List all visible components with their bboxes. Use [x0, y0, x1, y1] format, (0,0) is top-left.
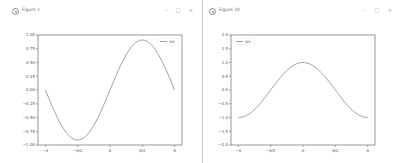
y-tick-label: −0.5 — [218, 101, 228, 106]
y-tick-label: −0.75 — [23, 129, 36, 134]
x-tick-label: 0 — [109, 148, 112, 153]
x-tick-label: π/2 — [139, 148, 146, 153]
y-tick-label: −2.0 — [218, 142, 228, 147]
y-tick-label: 1.0 — [222, 60, 229, 65]
x-tick-label: −π/2 — [73, 148, 83, 153]
x-tick-label: π — [366, 148, 369, 153]
y-tick-label: 1.5 — [222, 46, 229, 51]
figure-window-1: Figure 1 – □ × 1.000.750.500.250.00−0.25… — [0, 0, 200, 163]
y-tick-label: 0.25 — [26, 74, 35, 79]
y-tick-label: 1.00 — [26, 32, 35, 37]
x-tick-label: −π — [235, 148, 241, 153]
x-tick-label: 0 — [302, 148, 305, 153]
x-tick-label: −π — [42, 148, 48, 153]
y-tick-label: −0.50 — [23, 115, 36, 120]
figure-window-10: Figure 10 – □ × 2.01.51.00.50.0−0.5−1.0−… — [202, 0, 404, 163]
y-tick-label: 2.0 — [222, 32, 229, 37]
legend-label: sin — [245, 39, 251, 44]
x-tick-label: −π/2 — [266, 148, 276, 153]
series-line — [238, 63, 367, 118]
y-tick-label: 0.0 — [222, 87, 229, 92]
y-tick-label: 0.00 — [26, 87, 35, 92]
y-tick-label: 0.5 — [222, 74, 229, 79]
chart-cos: 2.01.51.00.50.0−0.5−1.0−1.5−2.0−π−π/20π/… — [203, 0, 404, 163]
y-tick-label: 0.50 — [26, 60, 35, 65]
plot-area — [231, 35, 375, 145]
x-tick-label: π — [173, 148, 176, 153]
y-tick-label: −1.5 — [218, 129, 228, 134]
y-tick-label: −0.25 — [23, 101, 36, 106]
x-tick-label: π/2 — [332, 148, 339, 153]
chart-sin: 1.000.750.500.250.00−0.25−0.50−0.75−1.00… — [0, 0, 200, 163]
legend-label: sin — [169, 39, 175, 44]
y-tick-label: 0.75 — [26, 46, 35, 51]
y-tick-label: −1.00 — [23, 142, 36, 147]
series-line — [45, 40, 174, 140]
y-tick-label: −1.0 — [218, 115, 228, 120]
